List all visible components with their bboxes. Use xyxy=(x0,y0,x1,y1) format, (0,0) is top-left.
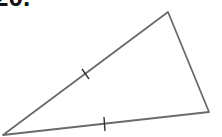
tick-mark-left-edge xyxy=(82,69,89,79)
tick-mark-bottom-edge xyxy=(104,117,105,131)
triangle-diagram xyxy=(0,0,222,137)
triangle xyxy=(3,12,209,135)
